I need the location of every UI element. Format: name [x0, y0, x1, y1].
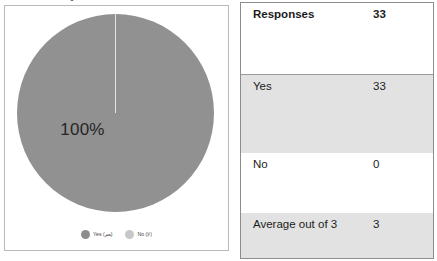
table-cell-value-average: 3	[371, 218, 421, 230]
legend-item-no[interactable]: No (لا)	[125, 230, 152, 239]
table-cell-value-yes: 33	[371, 80, 421, 92]
pie-chart-panel: 100% Yes (نعم) No (لا)	[4, 5, 229, 251]
pie-slice-yes[interactable]	[17, 14, 214, 212]
legend-swatch-yes	[81, 230, 90, 239]
table-cell-label-yes: Yes	[253, 80, 371, 92]
legend-label-yes: Yes (نعم)	[93, 232, 112, 237]
table-row-no: No 0	[241, 153, 433, 213]
table-row-yes: Yes 33	[241, 74, 433, 153]
table-cell-value-responses: 33	[371, 8, 421, 20]
pie-slice-separator	[115, 14, 116, 113]
summary-table: Responses 33 Yes 33 No 0 Average out of …	[240, 2, 434, 259]
cutoff-chart-title-text: Questionnaire Results	[66, 0, 174, 1]
screenshot-root: Questionnaire Results 100% Yes (نعم) No …	[0, 0, 437, 261]
legend-item-yes[interactable]: Yes (نعم)	[81, 230, 112, 239]
table-cell-label-responses: Responses	[253, 8, 371, 20]
table-cell-label-average: Average out of 3	[253, 218, 371, 230]
table-cell-label-no: No	[253, 158, 371, 170]
legend-label-no: No (لا)	[137, 232, 152, 237]
pie-chart-legend: Yes (نعم) No (لا)	[5, 230, 228, 239]
pie-data-label-yes: 100%	[60, 120, 104, 140]
table-row-responses: Responses 33	[241, 3, 433, 74]
table-cell-value-no: 0	[371, 158, 421, 170]
table-row-average: Average out of 3 3	[241, 213, 433, 258]
legend-swatch-no	[125, 230, 134, 239]
pie-chart: 100%	[17, 14, 214, 212]
